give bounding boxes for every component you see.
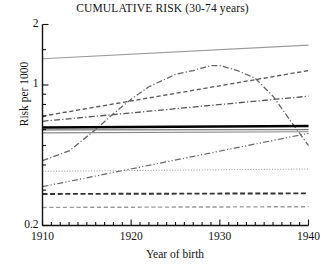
- data-series-line: [43, 66, 309, 161]
- x-tick-label: 1920: [108, 230, 154, 242]
- x-tick-label: 1910: [20, 230, 66, 242]
- data-series-line: [43, 126, 309, 127]
- y-tick-label: 0.2: [5, 218, 39, 230]
- data-series-line: [43, 193, 309, 194]
- data-series-line: [43, 96, 309, 121]
- data-series-line: [43, 45, 309, 59]
- plot-area: [0, 0, 325, 267]
- y-tick-label: 2: [5, 17, 39, 29]
- cumulative-risk-chart-figure: CUMULATIVE RISK (30-74 years) Risk per 1…: [0, 0, 325, 267]
- series-layer: [43, 45, 309, 207]
- x-tick-label: 1940: [286, 230, 325, 242]
- y-tick-label: 1: [5, 77, 39, 89]
- data-series-line: [43, 132, 309, 133]
- data-series-line: [43, 169, 309, 171]
- data-series-line: [43, 133, 309, 186]
- data-series-line: [43, 207, 309, 208]
- x-tick-label: 1930: [197, 230, 243, 242]
